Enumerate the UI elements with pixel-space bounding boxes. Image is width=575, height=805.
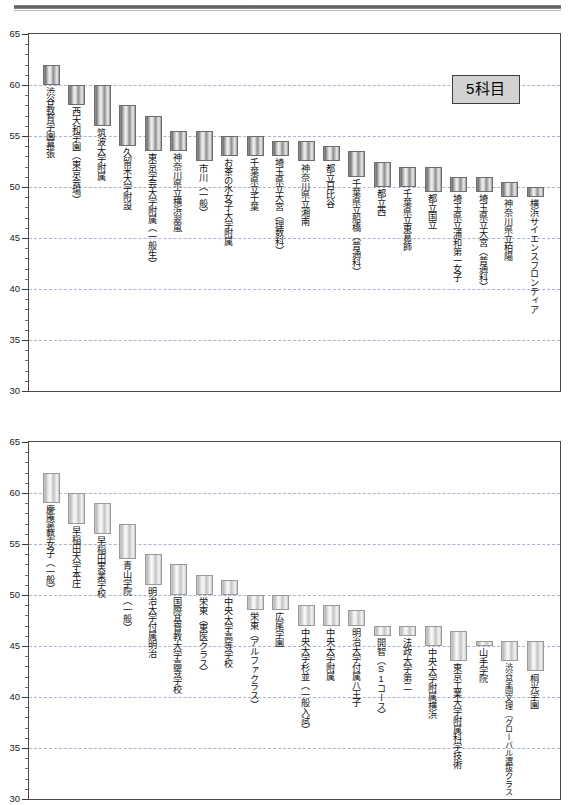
- category-label: 中央大学附属: [325, 628, 335, 681]
- category-label: 青山学院（一般）: [121, 561, 131, 631]
- bar: [221, 580, 238, 595]
- category-label: 都立西: [376, 189, 386, 215]
- category-label: 都立日比谷: [325, 164, 335, 208]
- category-label: 法政大学第二: [401, 638, 411, 691]
- bar: [425, 167, 442, 193]
- bar: [68, 493, 85, 524]
- category-label: 市川（一般）: [198, 164, 208, 217]
- category-label: 渋谷教育学園幕張: [45, 87, 55, 157]
- bar: [119, 524, 136, 560]
- gridline-35: [29, 340, 560, 341]
- category-label: 神奈川県立横浜翠嵐: [172, 153, 182, 232]
- bar: [348, 610, 365, 625]
- category-label: 筑波大学附属: [96, 128, 106, 181]
- bar: [450, 631, 467, 662]
- bar: [196, 131, 213, 162]
- y-axis-label-40: 40: [9, 692, 20, 702]
- bar: [298, 141, 315, 161]
- bar: [145, 554, 162, 585]
- category-label: 桐光学園: [529, 674, 539, 709]
- category-label: 慶應義塾女子（一般）: [45, 505, 55, 593]
- gridline-55: [29, 544, 560, 545]
- bar: [476, 177, 493, 192]
- category-label: 千葉県立船橋（普通科）: [350, 179, 360, 276]
- category-label: 中央大学杉並（一般入試）: [300, 628, 310, 734]
- category-label: 埼玉県立浦和第一女子: [452, 194, 462, 282]
- y-axis-label-35: 35: [9, 743, 20, 753]
- y-axis-label-55: 55: [9, 539, 20, 549]
- bar: [501, 641, 518, 661]
- y-axis-3kamoku: 3035404550556065: [0, 441, 28, 800]
- bar: [119, 105, 136, 146]
- bar: [374, 626, 391, 636]
- bar: [374, 162, 391, 188]
- category-label: 神奈川県立湘南: [300, 164, 310, 226]
- category-label: 東京学芸大学附属（一般生）: [147, 153, 157, 267]
- chart-panel-5kamoku: 渋谷教育学園幕張西大和学園（東京会場）筑波大学附属久留米大学附設東京学芸大学附属…: [28, 33, 561, 392]
- plot-area-3kamoku: 慶應義塾女子（一般）早稲田大学本庄早稲田実業学校青山学院（一般）明治大学付属明治…: [29, 442, 560, 799]
- bar: [476, 641, 493, 646]
- bar: [43, 473, 60, 504]
- category-label: 千葉県立東葛飾: [401, 189, 411, 251]
- bar: [348, 151, 365, 177]
- bar: [170, 564, 187, 595]
- gridline-50: [29, 595, 560, 596]
- gridline-35: [29, 748, 560, 749]
- bar: [196, 575, 213, 595]
- chart-page: 3035404550556065 渋谷教育学園幕張西大和学園（東京会場）筑波大学…: [0, 0, 575, 805]
- gridline-40: [29, 697, 560, 698]
- category-label: 埼玉県立大宮（普通科）: [478, 194, 488, 291]
- header-rule-thin: [14, 10, 561, 11]
- chart-panel-3kamoku: 慶應義塾女子（一般）早稲田大学本庄早稲田実業学校青山学院（一般）明治大学付属明治…: [28, 441, 561, 800]
- category-label: 山手学院: [478, 648, 488, 683]
- bar: [501, 182, 518, 197]
- bar: [399, 167, 416, 187]
- bar: [323, 605, 340, 625]
- category-label: 明治大学付属八王子: [350, 628, 360, 707]
- y-axis-label-65: 65: [9, 29, 20, 39]
- y-axis-label-65: 65: [9, 437, 20, 447]
- category-label: 明治大学付属明治: [147, 587, 157, 657]
- category-label: 西大和学園（東京会場）: [70, 107, 80, 204]
- y-axis-label-35: 35: [9, 335, 20, 345]
- bar: [527, 641, 544, 672]
- category-label: 東京工業大学附属科学技術: [452, 663, 462, 769]
- gridline-55: [29, 136, 560, 137]
- category-label: 埼玉県立大宮（理数科）: [274, 158, 284, 255]
- y-axis-label-60: 60: [9, 80, 20, 90]
- y-axis-label-55: 55: [9, 131, 20, 141]
- category-label: 渋谷学園文理（グローバル選抜クラス・普通科）: [503, 663, 512, 797]
- y-axis-label-45: 45: [9, 233, 20, 243]
- gridline-60: [29, 493, 560, 494]
- bar: [450, 177, 467, 192]
- category-label: 開智（S1コース）: [376, 638, 386, 719]
- bar: [272, 595, 289, 610]
- category-label: 久留米大学附設: [121, 148, 131, 210]
- category-label: 中央大学高等学校: [223, 597, 233, 667]
- category-label: 栄東（アルファクラス）: [249, 612, 259, 709]
- category-label: 都立国立: [427, 194, 437, 229]
- y-axis-label-30: 30: [9, 794, 20, 804]
- category-label: お茶の水女子大学附属: [223, 158, 233, 246]
- bar: [221, 136, 238, 156]
- category-label: 横浜サイエンスフロンティア: [529, 199, 539, 313]
- y-axis-label-40: 40: [9, 284, 20, 294]
- y-axis-label-50: 50: [9, 590, 20, 600]
- bar: [94, 85, 111, 126]
- gridline-45: [29, 646, 560, 647]
- bar: [425, 626, 442, 646]
- bar: [145, 116, 162, 152]
- bar: [247, 136, 264, 156]
- y-axis-label-30: 30: [9, 386, 20, 396]
- bar: [94, 503, 111, 534]
- category-label: 広尾学園: [274, 612, 284, 647]
- header-rule: [14, 5, 561, 9]
- bar: [170, 131, 187, 151]
- category-label: 神奈川県立柏陽: [503, 199, 513, 261]
- y-axis-label-45: 45: [9, 641, 20, 651]
- y-axis-label-60: 60: [9, 488, 20, 498]
- bar: [272, 141, 289, 156]
- y-axis-label-50: 50: [9, 182, 20, 192]
- category-label: 国際基督教大学高等学校: [172, 597, 182, 694]
- bar: [323, 146, 340, 161]
